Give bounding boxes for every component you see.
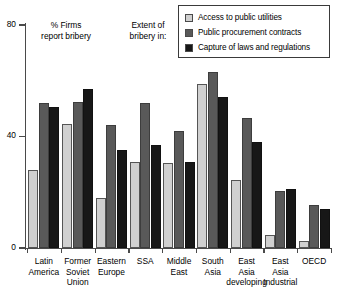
bar-group xyxy=(163,25,194,248)
x-tick xyxy=(95,248,96,253)
bar xyxy=(299,241,309,248)
x-tick xyxy=(230,248,231,253)
bar xyxy=(106,125,116,248)
bar xyxy=(265,235,275,248)
bar xyxy=(197,84,207,248)
bar xyxy=(231,180,241,248)
bar xyxy=(49,107,59,248)
bar xyxy=(185,162,195,248)
y-axis-line xyxy=(25,23,26,250)
bar xyxy=(275,191,285,248)
bar xyxy=(252,142,262,248)
bar xyxy=(286,189,296,248)
x-tick xyxy=(196,248,197,253)
legend-swatch-icon xyxy=(185,14,193,22)
bar-group xyxy=(299,25,330,248)
y-tick-label: 0 xyxy=(11,242,16,252)
x-tick xyxy=(263,248,264,253)
bar xyxy=(140,103,150,248)
bar xyxy=(62,124,72,248)
bar xyxy=(174,131,184,248)
x-tick xyxy=(331,248,332,253)
y-tick: 40 xyxy=(19,136,25,137)
bar xyxy=(320,209,330,248)
bar xyxy=(73,102,83,248)
x-axis-line xyxy=(25,248,331,249)
bar xyxy=(130,162,140,248)
bar xyxy=(163,163,173,248)
bar-group xyxy=(62,25,93,248)
bar-chart: % Firms report bribery Extent of bribery… xyxy=(0,0,337,300)
x-tick xyxy=(27,248,28,253)
bar xyxy=(39,103,49,248)
x-tick xyxy=(297,248,298,253)
bar xyxy=(151,145,161,248)
bar-group xyxy=(265,25,296,248)
x-tick xyxy=(162,248,163,253)
bar xyxy=(218,97,228,248)
bar-group xyxy=(197,25,228,248)
bar xyxy=(117,150,127,248)
bar xyxy=(242,118,252,248)
y-tick: 80 xyxy=(19,24,25,25)
legend-item-label: Access to public utilities xyxy=(198,13,282,22)
bar-group xyxy=(130,25,161,248)
legend-item-access-to-public-utilities: Access to public utilities xyxy=(185,10,324,25)
x-tick xyxy=(128,248,129,253)
bar-group xyxy=(28,25,59,248)
x-axis-label: OECD xyxy=(293,256,335,267)
bar xyxy=(83,89,93,248)
bar xyxy=(28,170,38,248)
bar-group xyxy=(231,25,262,248)
y-tick-label: 80 xyxy=(7,19,16,29)
x-tick xyxy=(61,248,62,253)
bar xyxy=(309,205,319,248)
bar-group xyxy=(96,25,127,248)
y-tick-label: 40 xyxy=(7,130,16,140)
bar xyxy=(96,198,106,248)
y-tick: 0 xyxy=(19,247,25,248)
bar xyxy=(208,72,218,248)
